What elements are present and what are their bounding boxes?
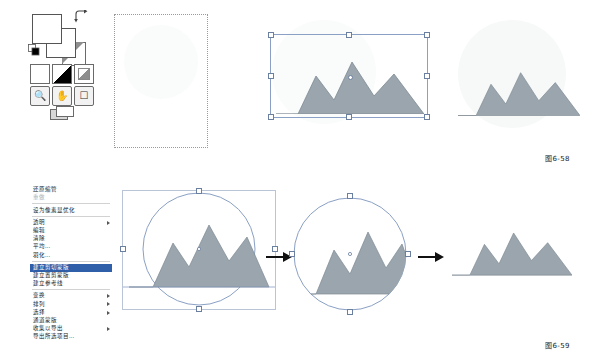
handle-middle-right[interactable]: [424, 73, 430, 79]
tool-palette[interactable]: 🔍 ✋ ☐: [28, 8, 96, 118]
submenu-arrow-icon: [107, 221, 110, 225]
menu-item-label: 还原缩管: [33, 187, 57, 193]
mask-mode-row[interactable]: [30, 64, 96, 84]
menu-item-label: 建立参考线: [33, 281, 63, 287]
handle-top-left[interactable]: [268, 32, 274, 38]
menu-item-5[interactable]: 清除: [30, 235, 112, 243]
row1-panel-3: [452, 14, 582, 146]
crop-icon[interactable]: ☐: [74, 86, 94, 106]
menu-item-label: 编辑: [33, 228, 45, 234]
submenu-arrow-icon: [107, 327, 110, 331]
row2-panel-3: [452, 222, 572, 286]
menu-item-11[interactable]: 变换: [30, 292, 112, 300]
row2-panel-2: [292, 196, 408, 312]
handle-bottom-center[interactable]: [346, 114, 352, 120]
handle-top-center[interactable]: [196, 188, 202, 194]
menu-item-label: 清除: [33, 236, 45, 242]
menu-item-label: 平均...: [33, 244, 50, 250]
menu-item-10[interactable]: 建立参考线: [30, 280, 112, 288]
swap-colors-icon[interactable]: [74, 10, 88, 24]
handle-top-center[interactable]: [346, 32, 352, 38]
handle-top-right[interactable]: [424, 32, 430, 38]
submenu-arrow-icon: [107, 302, 110, 306]
menu-item-15[interactable]: 收集以导出: [30, 325, 112, 333]
row1-panel-1-empty-canvas: [114, 14, 208, 148]
handle-middle-left[interactable]: [268, 73, 274, 79]
menu-item-12[interactable]: 排列: [30, 300, 112, 308]
menu-item-label: 羽化...: [33, 253, 50, 259]
menu-item-label: 排列: [33, 302, 45, 308]
menu-item-label: 选择: [33, 310, 45, 316]
menu-item-label: 变换: [33, 293, 45, 299]
menu-item-label: 重做: [33, 195, 45, 201]
menu-item-13[interactable]: 选择: [30, 308, 112, 316]
handle-middle-left[interactable]: [289, 251, 295, 257]
tool-icon-row[interactable]: 🔍 ✋ ☐: [30, 86, 96, 106]
circle-selection-with-mountain: [123, 191, 275, 309]
figure-caption-6-58: 图6-58: [545, 153, 570, 163]
menu-item-label: 收集以导出: [33, 326, 63, 332]
handle-bottom-right[interactable]: [424, 114, 430, 120]
menu-item-16[interactable]: 导出所选项目...: [30, 333, 112, 341]
mountain-clipped-circle: [292, 196, 408, 312]
mountain-shape: [458, 64, 580, 116]
menu-item-label: 建立置剪蒙版: [33, 273, 69, 279]
menu-item-label: 透明: [33, 220, 45, 226]
row2-panel-1: [122, 190, 276, 310]
transform-center-point[interactable]: [348, 75, 353, 80]
row1-panel-2: [268, 14, 428, 146]
handle-bottom-left[interactable]: [268, 114, 274, 120]
menu-item-label: 设为像素显优化: [33, 208, 75, 214]
menu-item-0[interactable]: 还原缩管: [30, 186, 112, 194]
hand-icon[interactable]: ✋: [52, 86, 72, 106]
menu-item-label: 建立剪切蒙版: [33, 265, 69, 271]
menu-item-1: 重做: [30, 194, 112, 202]
handle-bottom-center[interactable]: [347, 309, 353, 315]
faint-circle-wash: [124, 25, 198, 99]
handle-bottom-center[interactable]: [196, 306, 202, 312]
menu-item-14[interactable]: 通道蒙版: [30, 317, 112, 325]
menu-item-3[interactable]: 透明: [30, 219, 112, 227]
menu-item-8[interactable]: 建立剪切蒙版: [30, 264, 112, 272]
handle-middle-right[interactable]: [405, 251, 411, 257]
menu-item-9[interactable]: 建立置剪蒙版: [30, 272, 112, 280]
handle-middle-left[interactable]: [120, 246, 126, 252]
submenu-arrow-icon: [107, 294, 110, 298]
layer-context-menu[interactable]: 还原缩管 重做 设为像素显优化 透明 编辑 清除 平均... 羽化... 建立剪…: [30, 186, 112, 341]
handle-top-center[interactable]: [347, 193, 353, 199]
zoom-icon[interactable]: 🔍: [30, 86, 50, 106]
standard-mode-icon[interactable]: [30, 64, 50, 84]
default-colors-icon[interactable]: [28, 44, 40, 56]
quickmask-mode-icon[interactable]: [52, 64, 72, 84]
gradient-mode-icon[interactable]: [74, 64, 94, 84]
menu-item-4[interactable]: 编辑: [30, 227, 112, 235]
transform-bounding-box[interactable]: [270, 34, 428, 118]
menu-item-2[interactable]: 设为像素显优化: [30, 206, 112, 214]
mountain-final: [452, 222, 572, 278]
foreground-color-swatch[interactable]: [32, 14, 62, 44]
screen-mode-icon[interactable]: [50, 106, 74, 118]
menu-item-label: 通道蒙版: [33, 318, 57, 324]
menu-item-7[interactable]: 羽化...: [30, 251, 112, 259]
submenu-arrow-icon: [107, 311, 110, 315]
figure-caption-6-59: 图6-59: [545, 340, 570, 350]
arrow-2: [418, 252, 444, 262]
menu-item-6[interactable]: 平均...: [30, 243, 112, 251]
menu-item-label: 导出所选项目...: [33, 334, 74, 340]
